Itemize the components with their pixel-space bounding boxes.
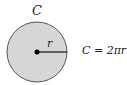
circle-diagram [0,0,127,85]
circumference-formula: C = 2πr [82,45,126,56]
center-point [35,50,40,55]
circumference-label: C [32,4,42,17]
radius-label: r [47,38,52,49]
